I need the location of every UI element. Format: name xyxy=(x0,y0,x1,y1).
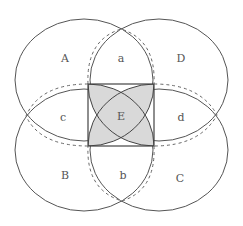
label-E: E xyxy=(117,110,125,123)
label-D: D xyxy=(177,52,186,65)
label-B: B xyxy=(61,169,69,182)
label-c: c xyxy=(60,111,66,124)
label-a: a xyxy=(118,52,125,65)
region-diagram: A a D c E d B b C xyxy=(0,0,243,226)
label-C: C xyxy=(176,172,184,185)
label-d: d xyxy=(177,111,184,124)
label-A: A xyxy=(60,52,70,65)
label-b: b xyxy=(119,169,126,182)
